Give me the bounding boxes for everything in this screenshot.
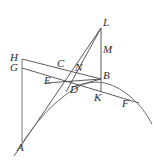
point-label-F: F (122, 98, 129, 109)
point-label-N: M (103, 44, 112, 55)
point-label-L: L (103, 17, 109, 28)
point-label-E: E (44, 75, 51, 86)
point-label-A: A (17, 142, 24, 153)
point-label-B: B (103, 70, 110, 81)
diagram-canvas: H G A C E N D L M B K F (0, 0, 158, 165)
point-label-D: D (70, 84, 78, 95)
point-label-G: G (10, 62, 18, 73)
point-label-K: K (94, 92, 101, 103)
parabolic-arc-A-D-F (18, 82, 152, 150)
point-label-C: C (57, 58, 64, 69)
point-label-M: N (75, 62, 82, 73)
